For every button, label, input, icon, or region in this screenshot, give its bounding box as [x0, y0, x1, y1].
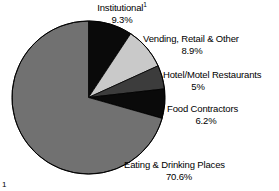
slice-label-institutional-name: Institutional1: [79, 2, 165, 14]
slice-label-institutional-value: 9.3%: [79, 14, 165, 26]
slice-label-institutional: Institutional1 9.3%: [79, 2, 165, 25]
slice-label-vending-retail-other-value: 8.9%: [143, 45, 279, 57]
footnote-marker: 1: [2, 180, 6, 189]
slice-label-eating-drinking-places-name: Eating & Drinking Places: [124, 159, 274, 171]
slice-label-food-contractors: Food Contractors 6.2%: [167, 103, 267, 126]
slice-label-food-contractors-value: 6.2%: [167, 115, 267, 127]
slice-label-eating-drinking-places-value: 70.6%: [124, 171, 274, 183]
slice-label-food-contractors-name: Food Contractors: [167, 103, 267, 115]
slice-label-hotel-motel-restaurants-name: Hotel/Motel Restaurants: [163, 69, 279, 81]
slice-label-vending-retail-other: Vending, Retail & Other 8.9%: [143, 33, 279, 56]
slice-label-hotel-motel-restaurants: Hotel/Motel Restaurants 5%: [163, 69, 279, 92]
footnote-superscript-icon: 1: [143, 1, 146, 8]
slice-label-eating-drinking-places: Eating & Drinking Places 70.6%: [124, 159, 274, 182]
slice-label-vending-retail-other-name: Vending, Retail & Other: [143, 33, 279, 45]
pie-chart-figure: Institutional1 9.3% Vending, Retail & Ot…: [0, 0, 279, 191]
slice-label-hotel-motel-restaurants-value: 5%: [163, 81, 279, 93]
